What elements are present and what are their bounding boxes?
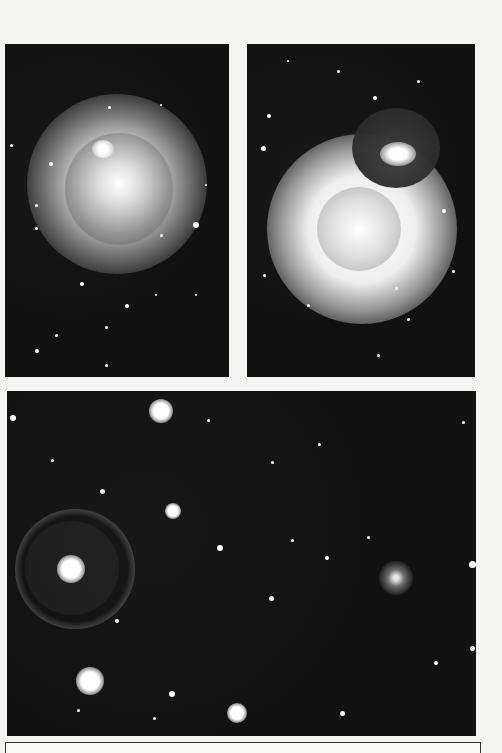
star: [452, 270, 455, 273]
star: [160, 104, 162, 106]
bright-knot: [92, 140, 114, 158]
star: [160, 234, 163, 237]
star: [337, 70, 340, 73]
star: [125, 304, 129, 308]
star: [434, 661, 438, 665]
star: [407, 318, 410, 321]
star: [271, 461, 274, 464]
star: [195, 294, 197, 296]
star: [307, 304, 310, 307]
star: [462, 421, 465, 424]
star: [51, 459, 54, 462]
star: [325, 556, 329, 560]
star: [263, 274, 266, 277]
bright-star: [227, 703, 247, 723]
star: [10, 415, 16, 421]
star: [469, 561, 476, 568]
star: [205, 184, 207, 186]
star: [340, 711, 345, 716]
star: [377, 354, 380, 357]
star: [169, 691, 175, 697]
bright-star: [149, 399, 173, 423]
star: [269, 596, 274, 601]
bright-star: [76, 667, 104, 695]
star: [193, 222, 199, 228]
star: [115, 619, 119, 623]
star: [153, 717, 156, 720]
star: [80, 282, 84, 286]
star: [442, 209, 446, 213]
photo-panel-top-left: [5, 44, 229, 377]
caption-frame: [5, 742, 481, 753]
bright-elongated-object: [380, 142, 416, 166]
star: [10, 144, 13, 147]
photo-panel-bottom: [7, 391, 476, 736]
star: [105, 364, 108, 367]
star: [367, 536, 370, 539]
star: [417, 80, 420, 83]
star: [267, 114, 271, 118]
star: [373, 96, 377, 100]
star: [470, 646, 475, 651]
star: [108, 106, 111, 109]
star: [291, 539, 294, 542]
star: [207, 419, 210, 422]
bright-star: [165, 503, 181, 519]
occulting-disk: [65, 133, 173, 245]
star: [49, 162, 53, 166]
star: [55, 334, 58, 337]
star: [287, 60, 289, 62]
star: [261, 146, 266, 151]
star: [318, 443, 321, 446]
star: [105, 326, 108, 329]
star: [395, 287, 398, 290]
photo-panel-top-right: [247, 44, 475, 377]
star: [77, 709, 80, 712]
bright-star: [57, 555, 85, 583]
star: [35, 204, 38, 207]
occulting-disk-main: [317, 187, 401, 271]
star: [100, 489, 105, 494]
star: [155, 294, 157, 296]
spiral-galaxy: [379, 561, 413, 595]
star: [35, 227, 38, 230]
star: [35, 349, 39, 353]
star: [217, 545, 223, 551]
